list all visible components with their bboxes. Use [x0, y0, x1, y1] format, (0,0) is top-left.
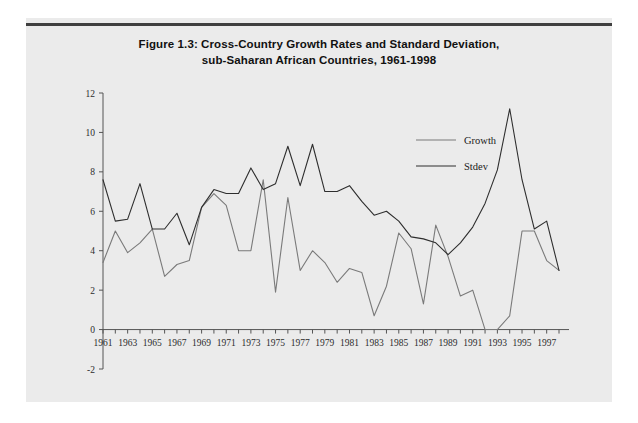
- y-axis-tick-label: 2: [90, 286, 95, 296]
- y-axis-tick-label: 4: [90, 246, 95, 256]
- chart-legend: GrowthStdev: [416, 135, 497, 172]
- x-axis-tick-label: 1967: [167, 338, 186, 348]
- x-axis-tick-label: 1973: [241, 338, 260, 348]
- y-axis: -2024681012: [86, 89, 104, 375]
- x-axis-tick-label: 1977: [291, 338, 310, 348]
- x-axis-tick-label: 1979: [315, 338, 334, 348]
- x-axis-tick-label: 1975: [266, 338, 285, 348]
- series-line-stdev: [103, 109, 559, 271]
- y-axis-tick-label: 8: [90, 167, 95, 177]
- x-axis-tick-label: 1963: [118, 338, 137, 348]
- x-axis-tick-label: 1971: [217, 338, 236, 348]
- x-axis-tick-label: 1981: [340, 338, 359, 348]
- y-axis-tick-label: 10: [86, 128, 96, 138]
- figure-page: Figure 1.3: Cross-Country Growth Rates a…: [0, 0, 638, 423]
- x-axis-tick-label: 1989: [439, 338, 458, 348]
- y-axis-tick-label: 12: [86, 89, 96, 99]
- y-axis-tick-label: -2: [87, 365, 95, 375]
- y-axis-tick-label: 6: [90, 207, 95, 217]
- legend-label-growth: Growth: [464, 135, 497, 146]
- series-line-growth: [103, 180, 559, 330]
- x-axis-tick-label: 1961: [94, 338, 113, 348]
- line-chart: -2024681012 1961196319651967196919711973…: [26, 18, 612, 402]
- x-axis-tick-label: 1965: [143, 338, 162, 348]
- x-axis-tick-label: 1997: [537, 338, 556, 348]
- x-axis-tick-label: 1995: [513, 338, 532, 348]
- x-axis-tick-label: 1991: [463, 338, 482, 348]
- x-axis-tick-label: 1983: [365, 338, 384, 348]
- x-axis-tick-label: 1985: [389, 338, 408, 348]
- y-axis-tick-label: 0: [90, 325, 95, 335]
- chart-svg: -2024681012 1961196319651967196919711973…: [26, 18, 612, 402]
- x-axis-tick-label: 1993: [488, 338, 507, 348]
- x-axis-tick-label: 1969: [192, 338, 211, 348]
- legend-label-stdev: Stdev: [464, 161, 489, 172]
- x-axis: 1961196319651967196919711973197519771979…: [94, 330, 570, 348]
- x-axis-tick-label: 1987: [414, 338, 433, 348]
